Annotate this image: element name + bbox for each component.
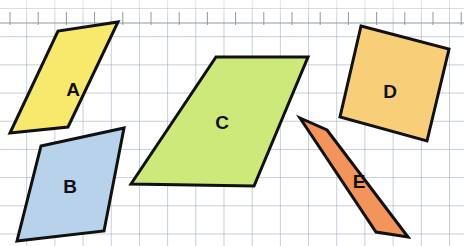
shape-outline-a[interactable]	[10, 22, 118, 133]
shape-label-e: E	[353, 171, 366, 192]
shape-label-a: A	[66, 79, 80, 100]
shape-label-c: C	[215, 112, 229, 133]
shape-label-b: B	[63, 176, 77, 197]
shape-c[interactable]: C	[131, 57, 308, 186]
shape-b[interactable]: B	[17, 128, 124, 241]
shape-d[interactable]: D	[340, 26, 449, 141]
shape-a[interactable]: A	[10, 22, 118, 133]
shape-label-d: D	[383, 81, 397, 102]
worksheet-canvas: g o g ABCDE	[0, 0, 464, 246]
shape-e[interactable]: E	[300, 118, 408, 237]
shapes-layer: ABCDE	[0, 0, 464, 246]
